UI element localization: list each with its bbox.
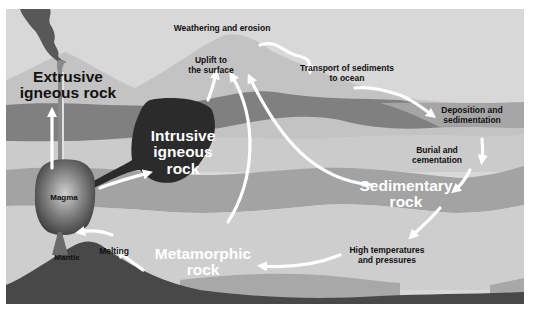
label-deposition-and-sedimentation: Deposition and sedimentation: [441, 106, 502, 125]
label-mantle: Mantle: [54, 254, 79, 263]
label-weathering-and-erosion: Weathering and erosion: [174, 24, 271, 34]
label-uplift-to-surface: Uplift to the surface: [188, 56, 233, 75]
label-extrusive-igneous-rock: Extrusive igneous rock: [20, 69, 116, 102]
label-melting: Melting: [99, 247, 129, 257]
label-intrusive-igneous-rock: Intrusive igneous rock: [151, 128, 216, 177]
arrow-burial: [482, 139, 483, 160]
label-transport-of-sediments: Transport of sediments to ocean: [300, 64, 394, 83]
label-sedimentary-rock: Sedimentary rock: [359, 178, 452, 211]
rock-cycle-diagram: Extrusive igneous rock Intrusive igneous…: [0, 0, 534, 309]
label-burial-and-cementation: Burial and cementation: [412, 146, 462, 165]
label-metamorphic-rock: Metamorphic rock: [155, 246, 251, 279]
label-magma: Magma: [50, 194, 78, 203]
label-high-temperatures-and-pressures: High temperatures and pressures: [349, 246, 424, 265]
